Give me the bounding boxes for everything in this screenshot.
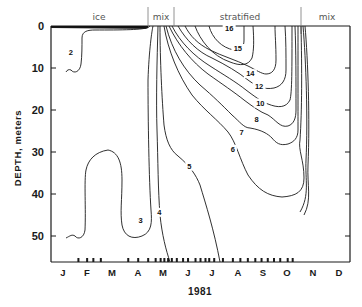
sampling-mark — [147, 258, 149, 262]
isotherm-contours — [51, 26, 309, 262]
contour-label-8: 8 — [254, 115, 258, 124]
sampling-mark — [213, 258, 215, 262]
y-tick-0: 0 — [38, 20, 44, 32]
y-tick-10: 10 — [32, 62, 44, 74]
contour-label-6: 6 — [231, 145, 235, 154]
month-label-mar: M — [108, 267, 116, 278]
contour-label-7: 7 — [240, 128, 244, 137]
sampling-mark — [127, 258, 129, 262]
sampling-mark — [239, 258, 241, 262]
month-label-dec: D — [336, 267, 343, 278]
sampling-mark — [273, 258, 275, 262]
contour-label-14: 14 — [246, 69, 255, 78]
month-label-nov: N — [310, 267, 317, 278]
isotherm-3 — [66, 26, 153, 238]
isotherm-2 — [66, 27, 148, 72]
month-label-aug: A — [235, 267, 242, 278]
contour-label-15: 15 — [234, 44, 242, 53]
isotherm-8 — [169, 26, 296, 126]
season-label-ice: ice — [93, 12, 106, 22]
sampling-mark — [254, 258, 256, 262]
sampling-mark — [267, 258, 269, 262]
isotherm-10 — [172, 26, 292, 107]
sampling-mark — [160, 258, 162, 262]
y-axis: 0 10 20 30 40 50 DEPTH, meters — [12, 20, 350, 242]
sampling-mark — [292, 258, 294, 262]
contour-label-16: 16 — [225, 24, 233, 33]
month-label-apr: A — [135, 267, 142, 278]
month-label-sep: S — [260, 267, 266, 278]
sampling-mark — [77, 258, 79, 262]
sampling-mark — [204, 258, 206, 262]
y-axis-title: DEPTH, meters — [12, 110, 23, 186]
sampling-mark — [176, 258, 178, 262]
depth-temperature-contour-chart: ice mix stratified mix 0 10 20 30 40 50 … — [0, 0, 362, 307]
sampling-mark — [195, 258, 197, 262]
sampling-mark — [279, 258, 281, 262]
month-label-may: M — [159, 267, 167, 278]
sampling-mark — [247, 258, 249, 262]
sampling-mark — [200, 258, 202, 262]
month-label-jun: J — [185, 267, 190, 278]
contour-label-12: 12 — [255, 82, 263, 91]
isotherm-5 — [160, 26, 220, 262]
month-label-jul: J — [209, 267, 214, 278]
sampling-mark — [137, 258, 139, 262]
x-axis: J F M A M J J A S O N D 1981 — [60, 267, 342, 297]
month-label-jan: J — [60, 267, 65, 278]
contour-labels: 23456781012141516 — [67, 24, 267, 225]
month-label-feb: F — [84, 267, 90, 278]
sampling-mark — [155, 258, 157, 262]
sampling-mark — [100, 258, 102, 262]
y-tick-50: 50 — [32, 230, 44, 242]
sampling-mark — [232, 258, 234, 262]
sampling-mark — [86, 258, 88, 262]
contour-label-3: 3 — [139, 216, 143, 225]
sampling-mark — [171, 258, 173, 262]
contour-label-10: 10 — [256, 99, 264, 108]
x-axis-title-year: 1981 — [188, 286, 212, 297]
sampling-mark — [287, 258, 289, 262]
season-label-mix-spring: mix — [153, 12, 170, 22]
contour-label-5: 5 — [187, 162, 191, 171]
sampling-mark — [163, 258, 165, 262]
sampling-mark — [261, 258, 263, 262]
season-label-mix-fall: mix — [319, 12, 336, 22]
y-tick-20: 20 — [32, 104, 44, 116]
sampling-mark — [187, 258, 189, 262]
sampling-mark — [222, 258, 224, 262]
isotherm-4 — [157, 26, 170, 262]
season-label-stratified: stratified — [220, 12, 260, 22]
contour-label-2: 2 — [69, 48, 73, 57]
sampling-mark — [182, 258, 184, 262]
y-tick-40: 40 — [32, 188, 44, 200]
month-label-oct: O — [283, 267, 290, 278]
sampling-mark — [208, 258, 210, 262]
y-tick-30: 30 — [32, 146, 44, 158]
sampling-mark — [92, 258, 94, 262]
